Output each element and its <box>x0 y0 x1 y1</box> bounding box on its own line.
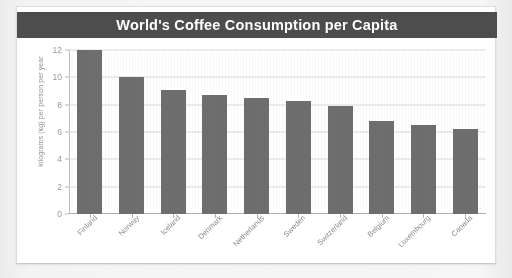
chart-title-bar: World's Coffee Consumption per Capita <box>17 12 497 38</box>
bar-slot <box>278 50 320 214</box>
x-axis-label-iceland: Iceland <box>156 219 179 242</box>
x-axis-label-text: Denmark <box>196 213 224 241</box>
x-axis-label-luxembourg: Luxembourg <box>394 219 430 255</box>
y-axis-title: kilograms (kg) per person per year <box>37 27 44 197</box>
x-axis-label-text: Finland <box>75 213 99 237</box>
bar-slot <box>444 50 486 214</box>
bar-netherlands[interactable] <box>244 98 269 214</box>
x-axis-label-text: Sweden <box>282 213 308 239</box>
bar-denmark[interactable] <box>202 95 227 214</box>
bar-slot <box>236 50 278 214</box>
bar-slot <box>152 50 194 214</box>
x-axis-label-text: Iceland <box>159 213 182 236</box>
y-axis-tick-label: 2 <box>57 182 69 192</box>
x-axis-label-belgium: Belgium <box>363 219 389 245</box>
x-axis-label-text: Norway <box>116 213 140 237</box>
page-title: World's Coffee Consumption per Capita <box>116 17 397 33</box>
x-axis-label-text: Luxembourg <box>397 213 433 249</box>
y-axis-tick-label: 0 <box>57 209 69 219</box>
y-axis-tick-label: 8 <box>57 100 69 110</box>
y-axis-tick-label: 6 <box>57 127 69 137</box>
plot-area: 024681012 FinlandNorwayIcelandDenmarkNet… <box>69 50 486 214</box>
x-axis-label-text: Netherlands <box>231 213 266 248</box>
bar-belgium[interactable] <box>369 121 394 214</box>
x-axis-label-text: Belgium <box>365 213 391 239</box>
bar-switzerland[interactable] <box>328 106 353 214</box>
chart-area: kilograms (kg) per person per year 02468… <box>17 38 497 265</box>
x-axis-label-norway: Norway <box>114 219 138 243</box>
x-axis-label-canada: Canada <box>447 219 472 244</box>
bar-series <box>69 50 486 214</box>
bar-slot <box>319 50 361 214</box>
bar-sweden[interactable] <box>286 101 311 214</box>
x-axis-label-switzerland: Switzerland <box>313 219 347 253</box>
x-axis-label-finland: Finland <box>72 219 96 243</box>
y-axis-tick-label: 12 <box>53 45 69 55</box>
y-axis-tick-label: 10 <box>53 72 69 82</box>
bar-slot <box>403 50 445 214</box>
x-axis-label-text: Switzerland <box>315 213 349 247</box>
bar-luxembourg[interactable] <box>411 125 436 214</box>
x-axis-label-sweden: Sweden <box>279 219 305 245</box>
bar-slot <box>69 50 111 214</box>
bar-slot <box>111 50 153 214</box>
bar-slot <box>194 50 236 214</box>
x-axis-label-netherlands: Netherlands <box>228 219 263 254</box>
bar-canada[interactable] <box>453 129 478 214</box>
x-axis-label-denmark: Denmark <box>193 219 221 247</box>
bar-norway[interactable] <box>119 77 144 214</box>
bar-iceland[interactable] <box>161 90 186 214</box>
bar-finland[interactable] <box>77 50 102 214</box>
bar-slot <box>361 50 403 214</box>
chart-card: World's Coffee Consumption per Capita ki… <box>16 6 496 264</box>
x-axis-label-text: Canada <box>449 213 474 238</box>
y-axis-tick-label: 4 <box>57 154 69 164</box>
